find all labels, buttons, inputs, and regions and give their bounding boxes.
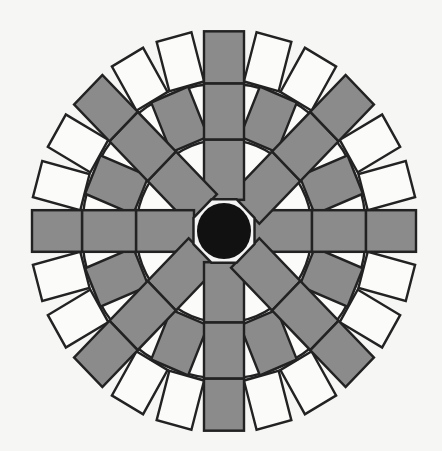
arm-6 [204,262,244,430]
arm-4-block-2 [32,210,82,252]
arm-6-block-1 [204,323,244,379]
arm-4-block-1 [82,210,136,252]
hub-black-circle [197,203,251,259]
arm-0-block-2 [366,210,416,252]
mosaic-svg [0,0,442,451]
arm-2 [204,31,244,199]
arm-0 [254,210,416,252]
central-hub [194,199,255,262]
arm-0-block-1 [312,210,366,252]
arm-2-block-2 [204,31,244,83]
radial-mosaic-figure [0,0,442,451]
arm-4 [32,210,194,252]
arm-2-block-1 [204,83,244,139]
mosaic-group [32,31,416,430]
arm-6-block-2 [204,379,244,431]
